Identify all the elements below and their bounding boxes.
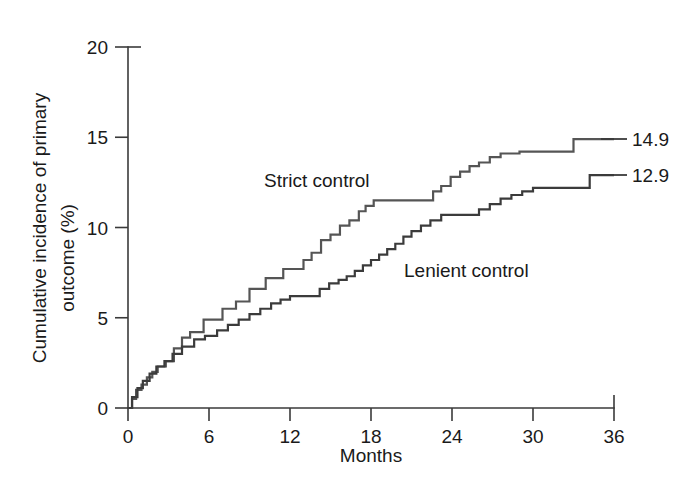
series-line-strict-control	[128, 139, 614, 408]
end-value-strict-control: 14.9	[632, 129, 669, 150]
x-tick-label-24: 24	[441, 426, 463, 447]
series-annotation-lenient-control: Lenient control	[404, 260, 529, 281]
x-tick-label-12: 12	[279, 426, 300, 447]
end-value-lenient-control: 12.9	[632, 165, 669, 186]
y-tick-label-0: 0	[97, 398, 108, 419]
y-tick-label-10: 10	[87, 218, 108, 239]
chart-figure: Cumulative incidence of primary outcome …	[0, 0, 694, 483]
x-axis-label: Months	[340, 445, 402, 466]
x-tick-label-30: 30	[522, 426, 543, 447]
y-axis-label-line1: Cumulative incidence of primary	[29, 92, 50, 363]
chart-svg: Cumulative incidence of primary outcome …	[0, 0, 694, 483]
series-line-lenient-control	[128, 175, 614, 408]
y-axis-label: Cumulative incidence of primary outcome …	[29, 92, 78, 363]
x-tick-label-6: 6	[204, 426, 215, 447]
x-tick-label-36: 36	[603, 426, 624, 447]
x-tick-label-18: 18	[360, 426, 381, 447]
y-tick-label-20: 20	[87, 37, 108, 58]
y-tick-group: 05101520	[87, 37, 128, 419]
y-axis-label-line2: outcome (%)	[57, 204, 78, 312]
y-tick-label-15: 15	[87, 127, 108, 148]
x-tick-group: 061218243036	[123, 408, 625, 447]
series-annotation-strict-control: Strict control	[264, 170, 370, 191]
x-tick-label-0: 0	[123, 426, 134, 447]
y-tick-label-5: 5	[97, 308, 108, 329]
